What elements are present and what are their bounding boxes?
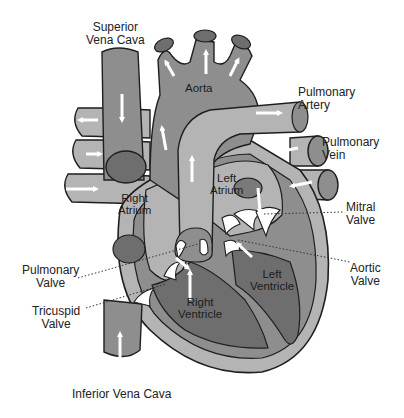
svc-opening bbox=[106, 151, 146, 183]
heart-diagram bbox=[0, 0, 404, 418]
pulmonary-valve-cusp-right bbox=[200, 239, 208, 255]
label-left-ventricle: Left Ventricle bbox=[250, 268, 294, 292]
label-right-ventricle: Right Ventricle bbox=[178, 296, 222, 320]
label-left-atrium: Left Atrium bbox=[210, 172, 243, 196]
label-pulmonary-artery: Pulmonary Artery bbox=[298, 86, 355, 112]
label-pulmonary-vein: Pulmonary Vein bbox=[322, 136, 379, 162]
label-inferior-vena-cava: Inferior Vena Cava bbox=[72, 388, 171, 401]
label-aortic-valve: Aortic Valve bbox=[350, 262, 381, 288]
label-superior-vena-cava: Superior Vena Cava bbox=[86, 21, 145, 47]
label-tricuspid-valve: Tricuspid Valve bbox=[32, 305, 80, 331]
label-aorta: Aorta bbox=[185, 82, 213, 94]
inferior-vena-cava-vessel bbox=[104, 300, 142, 357]
label-pulmonary-valve: Pulmonary Valve bbox=[22, 264, 79, 290]
aorta-branch-1 bbox=[152, 35, 175, 54]
label-mitral-valve: Mitral Valve bbox=[346, 201, 375, 227]
aorta-branch-2 bbox=[194, 30, 216, 42]
ivc-opening bbox=[113, 235, 145, 263]
label-right-atrium: Right Atrium bbox=[118, 192, 151, 216]
